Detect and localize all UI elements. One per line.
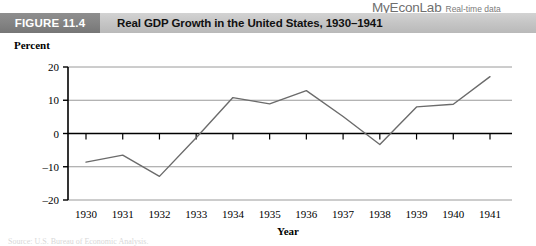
line-chart: 20100–10–20 1930193119321933193419351936… (0, 33, 536, 246)
gridlines-group (68, 67, 512, 200)
caption-line: Source: U.S. Bureau of Economic Analysis… (0, 238, 536, 246)
figure-number-badge: FIGURE 11.4 (0, 13, 100, 33)
y-tick-label: –10 (42, 161, 60, 173)
y-tick-label: 0 (54, 128, 60, 140)
y-tick-label: 10 (48, 94, 60, 106)
x-tick-label: 1936 (295, 208, 318, 220)
y-tick-label: 20 (48, 61, 60, 73)
x-tick-label: 1941 (479, 208, 501, 220)
figure-title: Real GDP Growth in the United States, 19… (100, 13, 536, 33)
gdp-growth-line (86, 77, 490, 177)
x-tick-label: 1932 (148, 208, 170, 220)
chart-container: 20100–10–20 1930193119321933193419351936… (0, 33, 536, 246)
x-tick-label: 1935 (259, 208, 282, 220)
figure-header-bar: FIGURE 11.4 Real GDP Growth in the Unite… (0, 13, 536, 33)
x-axis-ticks (86, 134, 490, 140)
y-axis-title: Percent (14, 39, 50, 51)
y-axis-tick-labels: 20100–10–20 (42, 61, 60, 206)
x-tick-label: 1940 (442, 208, 465, 220)
x-tick-label: 1933 (185, 208, 208, 220)
y-tick-label: –20 (42, 194, 60, 206)
x-tick-label: 1939 (406, 208, 429, 220)
x-axis-tick-labels: 1930193119321933193419351936193719381939… (75, 208, 501, 220)
x-tick-label: 1938 (369, 208, 392, 220)
x-tick-label: 1930 (75, 208, 98, 220)
x-tick-label: 1931 (112, 208, 134, 220)
source-caption-clipped: Source: U.S. Bureau of Economic Analysis… (0, 238, 536, 246)
y-axis (63, 67, 68, 200)
x-axis-title: Year (277, 225, 299, 237)
data-series-line (86, 77, 490, 177)
x-tick-label: 1937 (332, 208, 355, 220)
x-tick-label: 1934 (222, 208, 245, 220)
